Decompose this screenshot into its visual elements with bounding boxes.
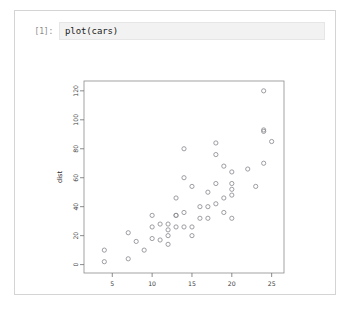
data-point xyxy=(206,216,210,220)
data-point xyxy=(222,196,226,200)
x-tick-label: 10 xyxy=(148,280,156,287)
y-tick-label: 80 xyxy=(73,145,80,153)
y-tick-label: 120 xyxy=(73,85,80,97)
data-point xyxy=(158,238,162,242)
data-point xyxy=(182,147,186,151)
y-axis-title: dist xyxy=(56,171,64,183)
data-point xyxy=(222,164,226,168)
data-point xyxy=(206,205,210,209)
data-point xyxy=(182,210,186,214)
y-tick-label: 60 xyxy=(73,174,80,182)
y-tick-label: 100 xyxy=(73,114,80,126)
y-tick-label: 0 xyxy=(73,263,80,267)
notebook-cell-card: [1]: plot(cars) 510152025020406080100120… xyxy=(14,10,336,295)
data-point xyxy=(126,257,130,261)
data-point xyxy=(214,141,218,145)
data-point xyxy=(174,225,178,229)
data-point xyxy=(230,187,234,191)
data-point xyxy=(214,202,218,206)
data-point xyxy=(198,216,202,220)
data-point xyxy=(230,181,234,185)
data-point xyxy=(174,213,178,217)
data-point xyxy=(166,222,170,226)
scatter-plot-svg: 510152025020406080100120speeddist xyxy=(15,47,337,294)
data-point xyxy=(102,248,106,252)
data-point xyxy=(198,205,202,209)
data-point xyxy=(158,222,162,226)
y-tick-label: 40 xyxy=(73,203,80,211)
data-point xyxy=(254,184,258,188)
data-point xyxy=(150,236,154,240)
data-point xyxy=(150,213,154,217)
data-point xyxy=(134,239,138,243)
y-tick-label: 20 xyxy=(73,232,80,240)
data-point xyxy=(270,139,274,143)
data-point xyxy=(182,176,186,180)
data-point xyxy=(166,234,170,238)
data-point xyxy=(166,228,170,232)
data-point xyxy=(262,89,266,93)
data-point xyxy=(174,196,178,200)
code-input-box[interactable]: plot(cars) xyxy=(59,22,325,40)
data-point xyxy=(182,225,186,229)
data-point xyxy=(166,242,170,246)
x-tick-label: 5 xyxy=(110,280,114,287)
x-tick-label: 20 xyxy=(228,280,236,287)
x-tick-label: 15 xyxy=(188,280,196,287)
data-point xyxy=(214,181,218,185)
data-point xyxy=(126,231,130,235)
data-point xyxy=(246,167,250,171)
cell-execution-count-prompt: [1]: xyxy=(15,27,59,36)
data-point xyxy=(190,225,194,229)
plot-panel-border xyxy=(84,81,284,273)
data-point xyxy=(230,170,234,174)
data-point xyxy=(190,184,194,188)
data-point xyxy=(102,260,106,264)
data-point xyxy=(230,216,234,220)
code-cell[interactable]: [1]: plot(cars) xyxy=(15,19,335,43)
x-tick-label: 25 xyxy=(268,280,276,287)
plot-output-area: 510152025020406080100120speeddist xyxy=(15,47,337,294)
data-point xyxy=(150,225,154,229)
data-point xyxy=(214,152,218,156)
data-point xyxy=(262,161,266,165)
code-input-text: plot(cars) xyxy=(65,26,118,36)
data-point xyxy=(206,190,210,194)
data-point xyxy=(230,193,234,197)
data-point xyxy=(142,248,146,252)
data-point xyxy=(190,234,194,238)
data-point xyxy=(222,210,226,214)
